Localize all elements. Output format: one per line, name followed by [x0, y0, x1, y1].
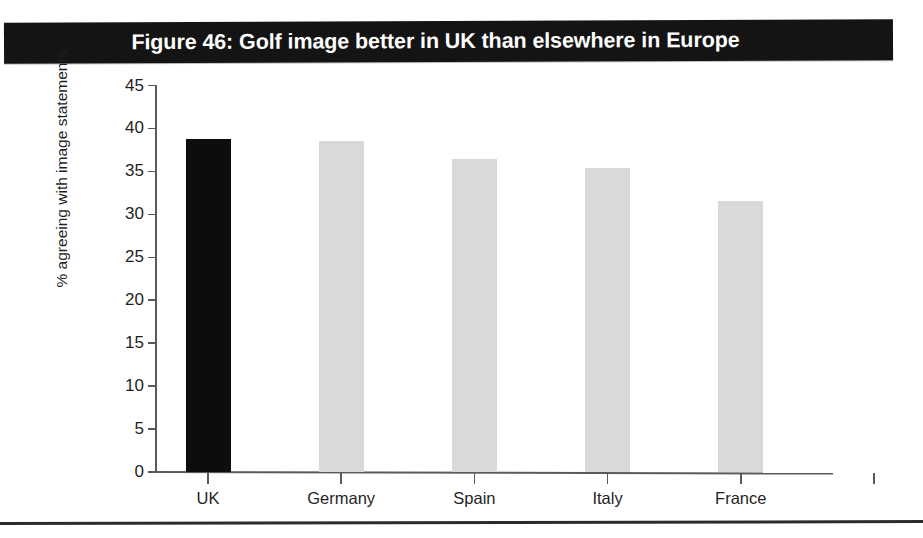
x-axis-tick-mark [340, 473, 342, 484]
bar-spain[interactable] [452, 159, 497, 472]
bar-italy[interactable] [585, 168, 630, 472]
x-axis-label-uk: UK [138, 489, 278, 508]
x-axis-tick-mark [607, 473, 609, 484]
x-axis-label-spain: Spain [404, 489, 544, 508]
bar-germany[interactable] [319, 141, 364, 472]
x-axis-label-germany: Germany [271, 489, 411, 508]
bar-chart: % agreeing with image statements 0510152… [0, 0, 923, 538]
x-axis-tick-mark [474, 473, 476, 484]
x-axis-label-italy: Italy [538, 489, 678, 508]
x-axis-tick-mark-end [873, 473, 875, 484]
x-axis-tick-mark [207, 473, 209, 484]
bars-container [0, 0, 923, 472]
x-axis-label-france: France [671, 489, 811, 508]
bar-uk[interactable] [186, 139, 231, 472]
bar-france[interactable] [718, 201, 763, 472]
x-axis-tick-mark [740, 473, 742, 484]
